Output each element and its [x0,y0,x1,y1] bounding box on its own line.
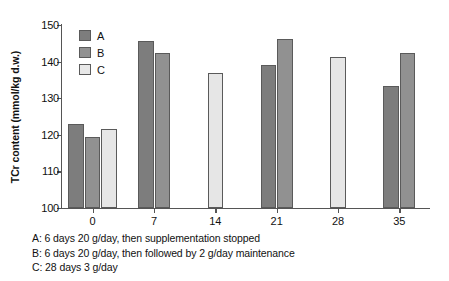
plot-area: 1001101201301401500714212835 [62,25,430,208]
bar-series-b-day-0 [85,137,101,208]
legend-item-b: B [79,45,105,60]
x-axis-tick-label: 28 [332,215,344,227]
chart-legend: ABC [79,28,105,79]
y-axis-tick-label: 120 [41,129,59,141]
x-axis-tick-label: 35 [393,215,405,227]
caption-line-2: B: 6 days 20 g/day, then followed by 2 g… [32,246,432,261]
bar-series-b-day-35 [400,53,416,208]
legend-label-a: A [97,30,104,42]
y-axis-tick-label: 130 [41,92,59,104]
legend-swatch-b [79,47,91,58]
legend-swatch-c [79,64,91,75]
y-axis-title-text: TCr content (mmol/kg d.w.) [9,50,21,182]
x-axis-tick-label: 21 [271,215,283,227]
caption-line-3: C: 28 days 3 g/day [32,260,432,275]
bar-series-a-day-21 [261,65,277,208]
y-axis-tick-label: 100 [41,202,59,214]
bar-series-a-day-7 [138,41,154,208]
legend-swatch-a [79,30,91,41]
bar-series-b-day-21 [277,39,293,208]
bar-series-a-day-0 [68,124,84,208]
legend-label-b: B [97,47,104,59]
x-axis-tick-label: 7 [151,215,157,227]
bar-series-a-day-35 [383,86,399,208]
x-axis-tick-mark [93,208,94,213]
bar-series-c-day-14 [208,73,224,208]
bar-series-c-day-0 [101,129,117,208]
legend-label-c: C [97,64,105,76]
caption-line-1: A: 6 days 20 g/day, then supplementation… [32,231,432,246]
bar-series-b-day-7 [155,53,171,208]
chart-caption: A: 6 days 20 g/day, then supplementation… [32,231,432,275]
y-axis-tick-label: 150 [41,19,59,31]
y-axis-tick-label: 140 [41,56,59,68]
x-axis-tick-label: 0 [90,215,96,227]
y-axis-title: TCr content (mmol/kg d.w.) [8,25,22,208]
x-axis-tick-mark [399,208,400,213]
y-axis-tick-label: 110 [42,165,59,177]
legend-item-c: C [79,62,105,77]
bar-series-c-day-28 [330,57,346,208]
x-axis-tick-mark [277,208,278,213]
x-axis-tick-label: 14 [209,215,221,227]
x-axis-tick-mark [154,208,155,213]
x-axis-tick-mark [215,208,216,213]
x-axis-tick-mark [338,208,339,213]
bar-chart-figure: TCr content (mmol/kg d.w.) 1001101201301… [0,0,449,281]
legend-item-a: A [79,28,105,43]
